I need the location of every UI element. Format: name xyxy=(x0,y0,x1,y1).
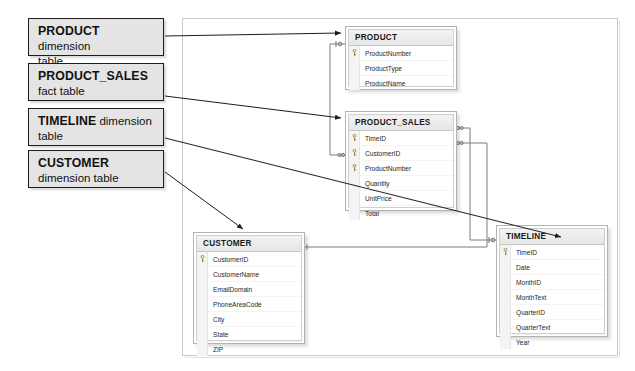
callout-product: PRODUCT dimension table xyxy=(28,18,164,56)
table-row[interactable]: TimeID xyxy=(349,131,453,146)
callout-product-rest: dimension xyxy=(38,40,90,52)
callout-product-strong: PRODUCT xyxy=(38,24,100,38)
callout-timeline-strong: TIMELINE xyxy=(38,114,96,128)
field-gutter xyxy=(500,305,511,319)
field-name: Quantity xyxy=(360,180,390,187)
field-gutter xyxy=(197,312,208,326)
field-name: ProductName xyxy=(360,80,405,87)
table-row[interactable]: ProductType xyxy=(349,61,453,76)
table-row[interactable]: City xyxy=(197,312,301,327)
table-row[interactable]: MonthID xyxy=(500,275,604,290)
table-row[interactable]: QuarterID xyxy=(500,305,604,320)
table-product-title: PRODUCT xyxy=(349,30,453,46)
field-name: Year xyxy=(511,339,529,346)
key-icon xyxy=(349,146,360,160)
table-row[interactable]: Date xyxy=(500,260,604,275)
field-name: EmailDomain xyxy=(208,286,252,293)
field-name: QuarterID xyxy=(511,309,545,316)
table-row[interactable]: State xyxy=(197,327,301,342)
key-icon xyxy=(500,245,511,259)
table-timeline-title: TIMELINE xyxy=(500,229,604,245)
field-name: TimeID xyxy=(360,135,386,142)
key-icon xyxy=(349,161,360,175)
field-gutter xyxy=(349,176,360,190)
field-gutter xyxy=(500,320,511,334)
field-gutter xyxy=(349,76,360,90)
callout-timeline: TIMELINE dimension table xyxy=(28,108,164,146)
field-name: CustomerName xyxy=(208,271,259,278)
field-gutter xyxy=(500,335,511,349)
field-gutter xyxy=(197,327,208,341)
table-row[interactable]: CustomerID xyxy=(197,252,301,267)
field-gutter xyxy=(500,260,511,274)
callout-customer: CUSTOMER dimension table xyxy=(28,150,164,188)
field-gutter xyxy=(197,282,208,296)
field-name: ProductType xyxy=(360,65,402,72)
table-timeline[interactable]: TIMELINE TimeID Date MonthID xyxy=(496,225,608,337)
field-name: Date xyxy=(511,264,530,271)
table-row[interactable]: MonthText xyxy=(500,290,604,305)
table-product-sales-title: PRODUCT_SALES xyxy=(349,115,453,131)
table-customer[interactable]: CUSTOMER CustomerID CustomerName EmailDo… xyxy=(193,232,305,344)
field-name: Total xyxy=(360,210,379,217)
field-gutter xyxy=(500,275,511,289)
field-name: State xyxy=(208,331,228,338)
table-row[interactable]: EmailDomain xyxy=(197,282,301,297)
callout-product-sales-line2: fact table xyxy=(38,84,155,98)
table-row[interactable]: ProductNumber xyxy=(349,161,453,176)
field-name: QuarterText xyxy=(511,324,550,331)
diagram-canvas: PRODUCT dimension table PRODUCT_SALES fa… xyxy=(0,0,635,371)
field-name: PhoneAreaCode xyxy=(208,301,262,308)
table-row[interactable]: ProductNumber xyxy=(349,46,453,61)
field-name: MonthText xyxy=(511,294,546,301)
field-gutter xyxy=(500,290,511,304)
field-gutter xyxy=(197,342,208,356)
field-name: MonthID xyxy=(511,279,541,286)
table-product[interactable]: PRODUCT ProductNumber ProductType Produc… xyxy=(345,26,457,90)
field-name: UnitPrice xyxy=(360,195,392,202)
table-row[interactable]: Quantity xyxy=(349,176,453,191)
callout-customer-strong: CUSTOMER xyxy=(38,156,109,170)
key-icon xyxy=(197,252,208,266)
field-name: City xyxy=(208,316,224,323)
callout-customer-line2: dimension table xyxy=(38,171,155,185)
field-name: CustomerID xyxy=(360,150,400,157)
callout-product-sales: PRODUCT_SALES fact table xyxy=(28,63,164,101)
field-gutter xyxy=(197,267,208,281)
field-gutter xyxy=(349,61,360,75)
field-name: ProductNumber xyxy=(360,165,411,172)
key-icon xyxy=(349,46,360,60)
field-name: ProductNumber xyxy=(360,50,411,57)
callout-timeline-line2: table xyxy=(38,129,155,143)
table-row[interactable]: QuarterText xyxy=(500,320,604,335)
table-row[interactable]: ProductName xyxy=(349,76,453,90)
field-gutter xyxy=(349,191,360,205)
table-row[interactable]: CustomerID xyxy=(349,146,453,161)
table-product-sales[interactable]: PRODUCT_SALES TimeID CustomerID xyxy=(345,111,457,211)
table-row[interactable]: CustomerName xyxy=(197,267,301,282)
table-row[interactable]: TimeID xyxy=(500,245,604,260)
callout-timeline-rest: dimension xyxy=(96,115,152,127)
key-icon xyxy=(349,131,360,145)
table-row[interactable]: Year xyxy=(500,335,604,349)
field-gutter xyxy=(349,206,360,220)
table-row[interactable]: PhoneAreaCode xyxy=(197,297,301,312)
field-name: ZIP xyxy=(208,346,223,353)
table-row[interactable]: Total xyxy=(349,206,453,220)
field-name: CustomerID xyxy=(208,256,248,263)
table-row[interactable]: ZIP xyxy=(197,342,301,356)
table-row[interactable]: UnitPrice xyxy=(349,191,453,206)
field-gutter xyxy=(197,297,208,311)
field-name: TimeID xyxy=(511,249,537,256)
callout-product-sales-strong: PRODUCT_SALES xyxy=(38,69,148,83)
table-customer-title: CUSTOMER xyxy=(197,236,301,252)
